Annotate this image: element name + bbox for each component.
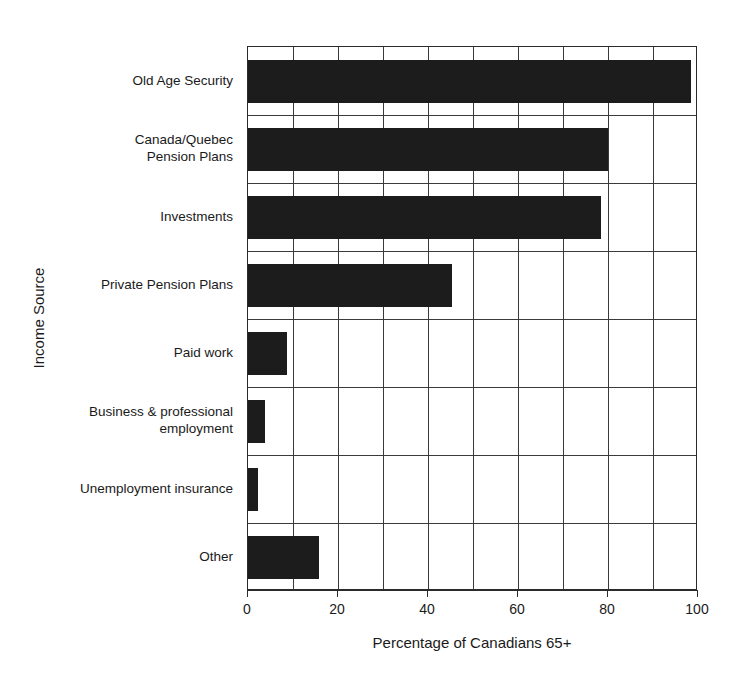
bar [248, 128, 608, 171]
y-axis-tick-label: Private Pension Plans [0, 276, 233, 293]
bar [248, 264, 452, 307]
x-axis-tick [607, 590, 608, 597]
y-axis-tick-label: Unemployment insurance [0, 480, 233, 497]
x-axis-tick [697, 590, 698, 597]
y-axis-tick-label: Business & professional employment [0, 403, 233, 437]
bar [248, 332, 287, 375]
bar-row [248, 251, 696, 319]
y-axis-tick-labels: Old Age SecurityCanada/Quebec Pension Pl… [0, 46, 241, 590]
x-axis-tick-label: 100 [667, 601, 727, 617]
y-axis-tick-label: Old Age Security [0, 72, 233, 89]
y-axis-tick-label: Other [0, 548, 233, 565]
x-axis-tick-label: 20 [307, 601, 367, 617]
y-axis-tick-label: Canada/Quebec Pension Plans [0, 131, 233, 165]
x-axis-line [247, 590, 697, 591]
bar-row [248, 523, 696, 591]
x-axis-tick [337, 590, 338, 597]
bar [248, 60, 691, 103]
x-axis-tick-label: 0 [217, 601, 277, 617]
x-axis-tick-label: 80 [577, 601, 637, 617]
bar-row [248, 183, 696, 251]
x-axis-tick-label: 60 [487, 601, 547, 617]
y-axis-tick-label: Paid work [0, 344, 233, 361]
bar-row [248, 455, 696, 523]
bar [248, 536, 319, 579]
bar-row [248, 115, 696, 183]
y-axis-tick-label: Investments [0, 208, 233, 225]
x-axis-tick [247, 590, 248, 597]
bar [248, 468, 258, 511]
bar [248, 400, 265, 443]
x-axis-tick [517, 590, 518, 597]
x-axis-tick [427, 590, 428, 597]
x-axis-title: Percentage of Canadians 65+ [247, 634, 697, 651]
bar-row [248, 319, 696, 387]
x-axis-tick-label: 40 [397, 601, 457, 617]
bar-chart: Income Source Old Age SecurityCanada/Que… [0, 0, 743, 696]
bar-row [248, 387, 696, 455]
bar [248, 196, 601, 239]
bar-row [248, 47, 696, 115]
plot-area [247, 46, 697, 590]
